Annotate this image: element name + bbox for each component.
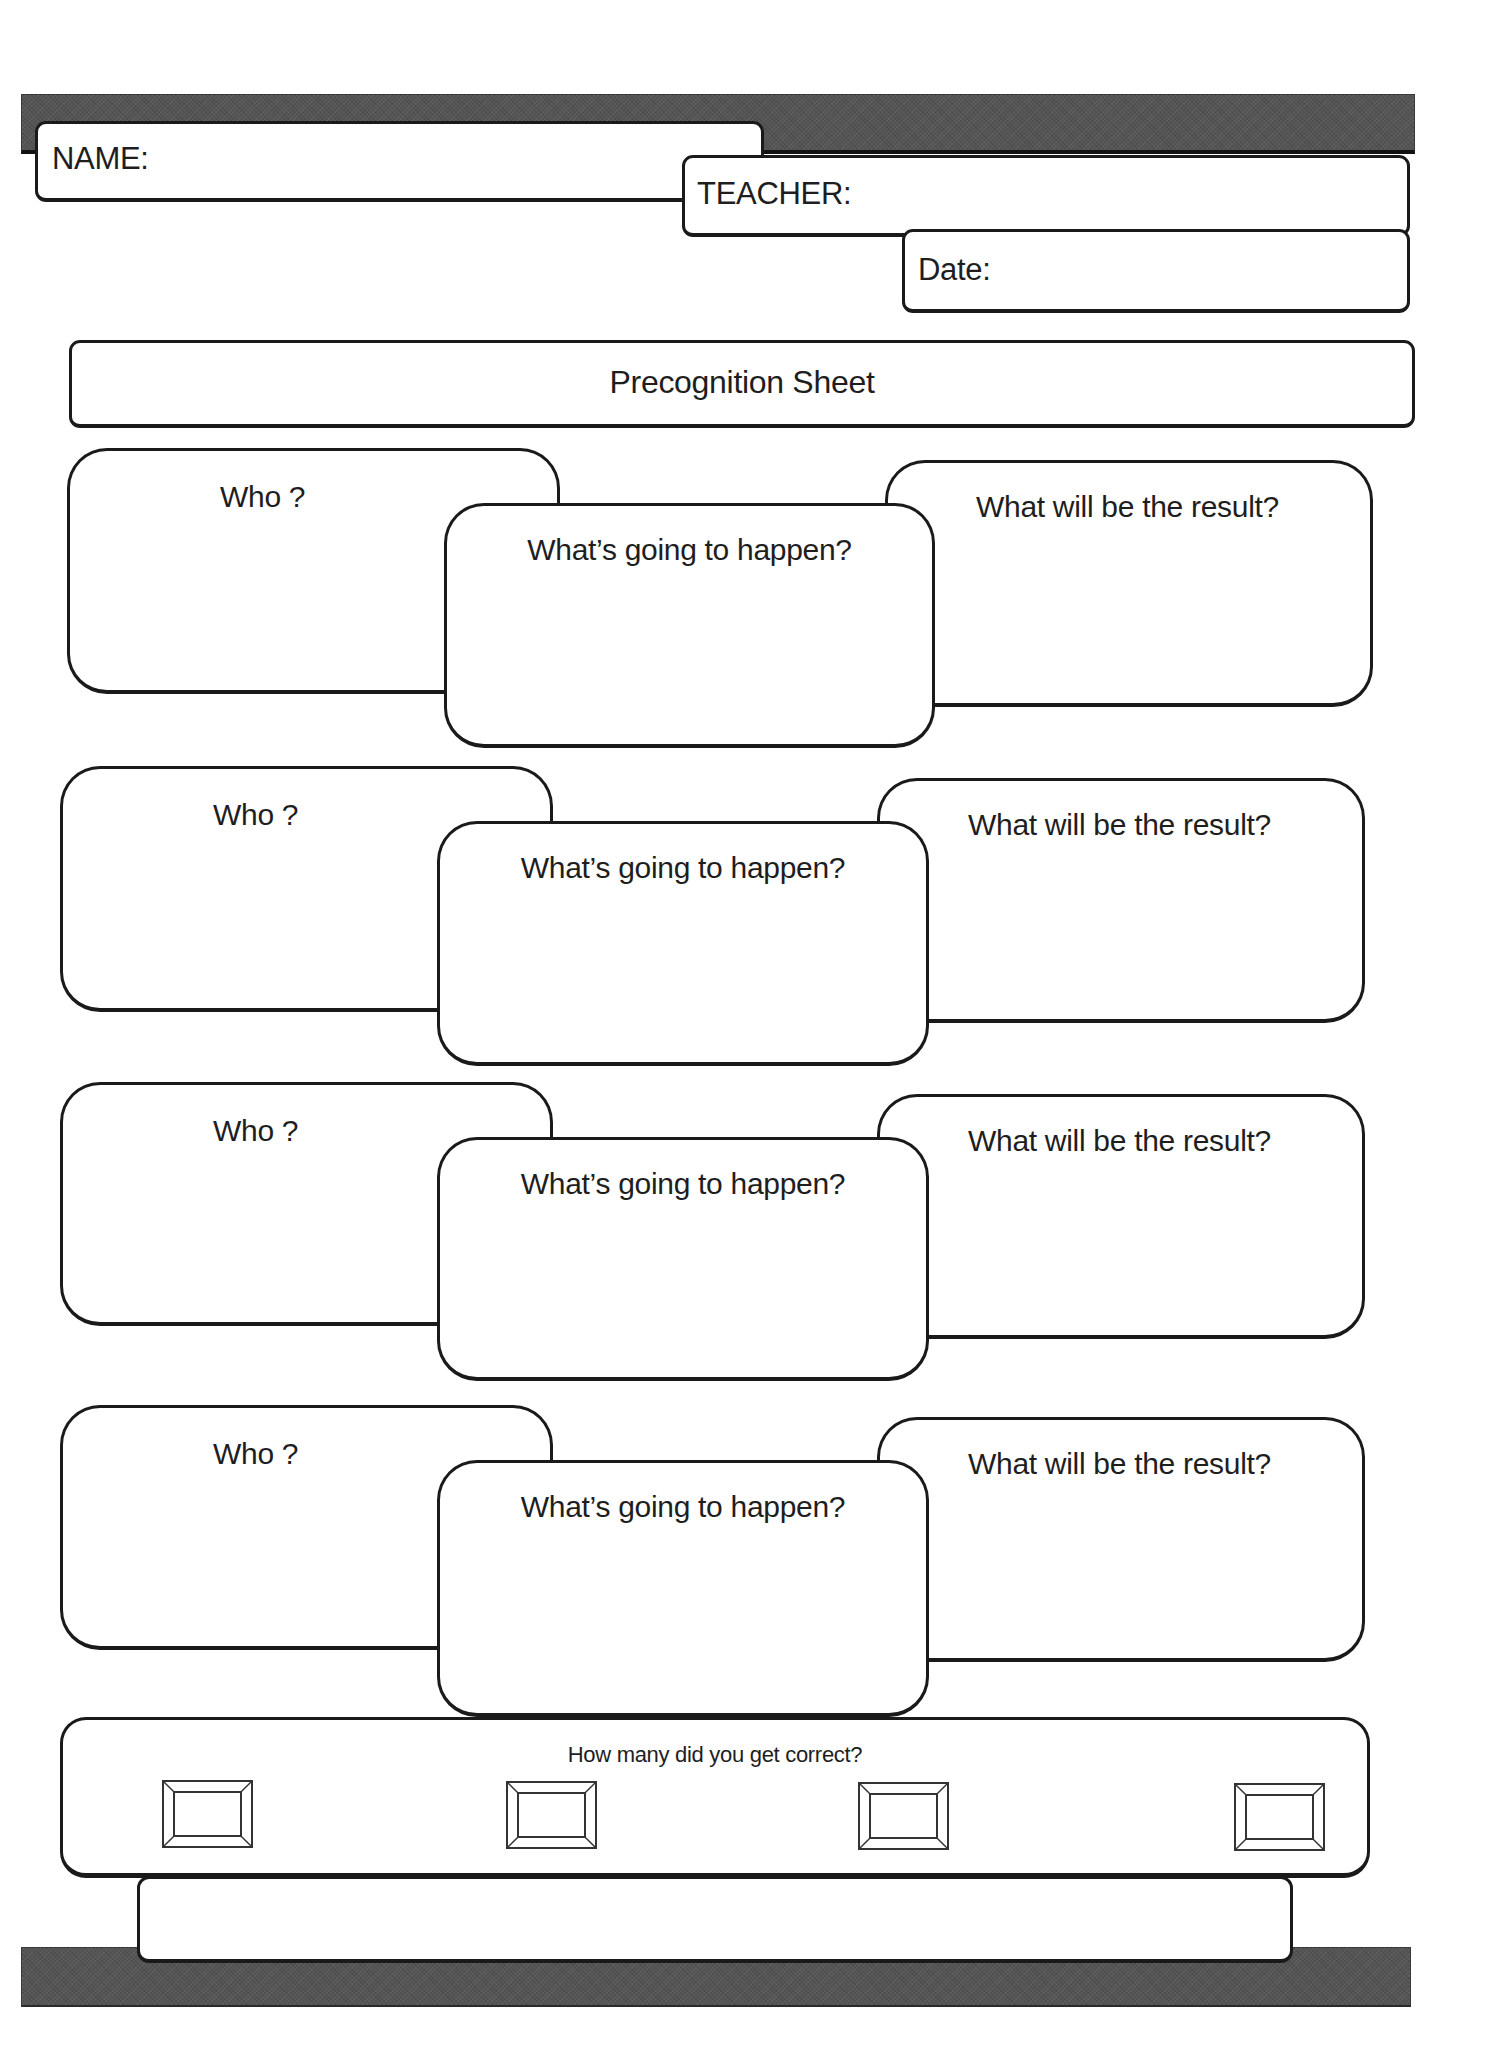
bevel-corner-lines-icon [1236,1785,1323,1849]
what-happens-label-3: What’s going to happen? [440,1167,926,1201]
what-happens-box-1[interactable]: What’s going to happen? [444,503,935,748]
what-happens-box-2[interactable]: What’s going to happen? [437,821,929,1066]
what-happens-box-4[interactable]: What’s going to happen? [437,1460,929,1717]
title-banner: Precognition Sheet [69,340,1415,428]
score-checkbox-1[interactable] [162,1780,253,1848]
what-happens-label-1: What’s going to happen? [447,533,932,567]
bevel-corner-lines-icon [508,1783,595,1847]
result-label-3: What will be the result? [968,1124,1271,1158]
result-label-1: What will be the result? [976,490,1279,524]
score-question: How many did you get correct? [63,1742,1367,1768]
score-checkbox-3[interactable] [858,1782,949,1850]
teacher-label: TEACHER: [697,176,851,212]
result-box-3[interactable]: What will be the result? [877,1094,1365,1339]
result-label-2: What will be the result? [968,808,1271,842]
who-label-4: Who ? [213,1437,298,1471]
teacher-field[interactable]: TEACHER: [682,155,1410,237]
who-label-2: Who ? [213,798,298,832]
score-panel: How many did you get correct? [60,1717,1370,1878]
result-box-2[interactable]: What will be the result? [877,778,1365,1023]
score-checkbox-2[interactable] [506,1781,597,1849]
result-box-4[interactable]: What will be the result? [877,1417,1365,1662]
name-field[interactable]: NAME: [35,121,764,202]
footer-notes-box[interactable] [137,1876,1293,1963]
page-title: Precognition Sheet [72,364,1412,401]
what-happens-box-3[interactable]: What’s going to happen? [437,1137,929,1381]
who-label-3: Who ? [213,1114,298,1148]
date-field[interactable]: Date: [902,229,1410,313]
who-label-1: Who ? [220,480,305,514]
bevel-corner-lines-icon [164,1782,251,1846]
date-label: Date: [918,252,991,288]
name-label: NAME: [52,141,149,177]
score-checkbox-4[interactable] [1234,1783,1325,1851]
what-happens-label-4: What’s going to happen? [440,1490,926,1524]
result-box-1[interactable]: What will be the result? [885,460,1373,707]
what-happens-label-2: What’s going to happen? [440,851,926,885]
result-label-4: What will be the result? [968,1447,1271,1481]
bevel-corner-lines-icon [860,1784,947,1848]
